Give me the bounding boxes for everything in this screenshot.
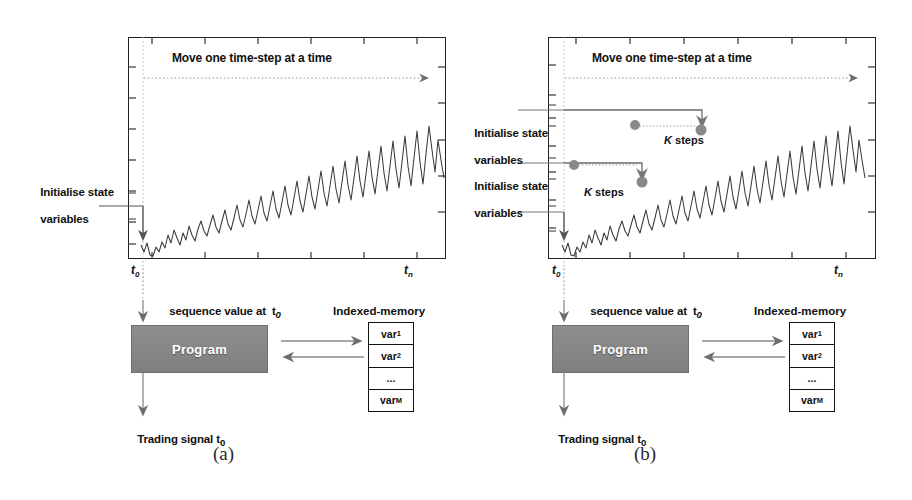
caption-a: (a) [213,443,234,465]
sequence-value-text-b: sequence value at t [590,305,696,317]
initialise-state-upper-line2-b: variables [474,154,523,166]
tn-subscript-b: n [838,270,843,279]
tn-axis-label-b: tn [834,263,843,279]
memory-row: var1 [369,323,413,345]
initialise-state-lower-line1-b: Initialise state [474,180,548,192]
memory-row: varM [790,390,834,411]
initialise-state-line2-a: variables [40,213,89,225]
initialise-state-label-lower-b: Initialise state variables [456,166,548,234]
program-label-a: Program [172,342,227,357]
figure-container: Move one time-step at a time Initialise … [0,0,912,500]
t0-axis-label-a: t0 [131,263,139,279]
t0-subscript-b: 0 [556,270,560,279]
t0-subscript-a: 0 [135,270,139,279]
t0-axis-label-b: t0 [552,263,560,279]
memory-row: varM [369,390,413,411]
sequence-value-sub-b: 0 [697,309,702,320]
memory-row: var1 [790,323,834,345]
program-box-b[interactable]: Program [552,325,689,373]
k-steps-label-upper-b: K steps [664,134,704,146]
trading-signal-text-a: Trading signal t [137,433,220,445]
k-steps-label-lower-b: K steps [584,186,624,198]
sequence-value-sub-a: 0 [276,309,281,320]
panel-a-graphics [0,0,456,500]
trading-signal-label-a: Trading signal t0 [119,419,225,463]
k-steps-lower-k-b: K [584,186,592,198]
memory-row: var2 [790,345,834,367]
program-label-b: Program [593,342,648,357]
k-steps-lower-rest-b: steps [592,186,624,198]
indexed-memory-title-b: Indexed-memory [754,305,846,317]
memory-row: var2 [369,345,413,367]
indexed-memory-table-b: var1 var2 ... varM [789,322,835,412]
panel-a: Move one time-step at a time Initialise … [0,0,456,500]
tn-subscript-a: n [408,270,413,279]
move-one-timestep-label-a: Move one time-step at a time [172,52,332,66]
initialise-state-label-a: Initialise state variables [22,172,114,240]
k-steps-upper-k-b: K [664,134,672,146]
memory-row: ... [790,368,834,390]
move-one-timestep-label-b: Move one time-step at a time [592,52,752,66]
memory-row: ... [369,368,413,390]
panel-b: Move one time-step at a time Initialise … [456,0,912,500]
tn-axis-label-a: tn [404,263,413,279]
caption-b: (b) [634,443,656,465]
k-steps-upper-rest-b: steps [672,134,704,146]
indexed-memory-title-a: Indexed-memory [333,305,425,317]
initialise-state-upper-line1-b: Initialise state [474,127,548,139]
trading-signal-label-b: Trading signal t0 [540,419,646,463]
program-box-a[interactable]: Program [131,325,268,373]
indexed-memory-table-a: var1 var2 ... varM [368,322,414,412]
sequence-value-text-a: sequence value at t [169,305,275,317]
panel-b-graphics [456,0,912,500]
initialise-state-line1-a: Initialise state [40,186,114,198]
initialise-state-lower-line2-b: variables [474,207,523,219]
trading-signal-text-b: Trading signal t [558,433,641,445]
